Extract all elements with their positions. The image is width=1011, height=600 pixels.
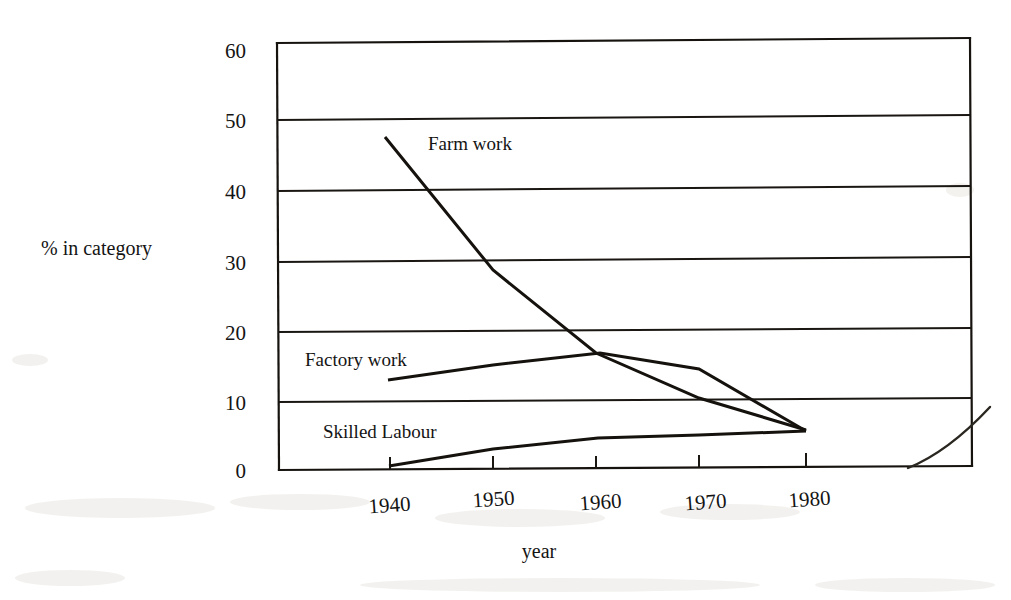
factory-work-label: Factory work bbox=[305, 349, 407, 370]
x-tick-1980: 1980 bbox=[788, 486, 832, 513]
x-tick-1960: 1960 bbox=[579, 489, 623, 516]
y-tick-30: 30 bbox=[225, 251, 246, 275]
y-tick-60: 60 bbox=[225, 39, 246, 63]
line-chart-svg: 60 50 40 30 20 10 0 % in category 1940 1… bbox=[0, 0, 1011, 600]
x-tick-1940: 1940 bbox=[368, 492, 412, 519]
y-tick-20: 20 bbox=[225, 321, 246, 345]
y-tick-10: 10 bbox=[225, 391, 246, 415]
farm-work-label: Farm work bbox=[428, 133, 512, 154]
y-tick-40: 40 bbox=[225, 180, 246, 204]
skilled-labour-label: Skilled Labour bbox=[323, 421, 437, 442]
x-axis-title: year bbox=[522, 540, 557, 563]
y-axis-title: % in category bbox=[41, 237, 152, 260]
y-tick-50: 50 bbox=[225, 109, 246, 133]
x-tick-1970: 1970 bbox=[684, 489, 728, 516]
chart-figure: 60 50 40 30 20 10 0 % in category 1940 1… bbox=[0, 0, 1011, 600]
y-tick-0: 0 bbox=[236, 459, 247, 483]
x-tick-1950: 1950 bbox=[472, 486, 516, 513]
